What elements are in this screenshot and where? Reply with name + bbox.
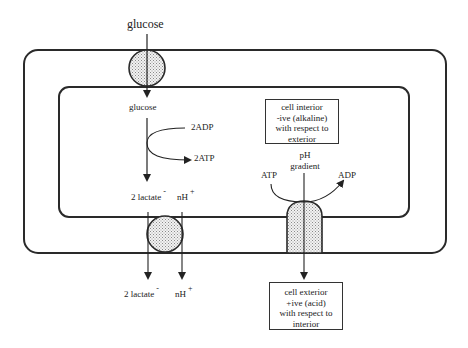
proton-inside-label: nH+: [177, 192, 195, 203]
outer-membrane: [24, 50, 446, 253]
cell-exterior-box: cell exterior +ive (acid) with respect t…: [269, 282, 343, 330]
adp-atp-curve: [147, 128, 190, 160]
ph-gradient-label: pH gradient: [285, 150, 325, 172]
atp-adp-curve: [271, 181, 343, 202]
atp-label: 2ATP: [194, 153, 215, 164]
cell-diagram: [0, 0, 468, 348]
lactate-inside-label: 2 lactate-: [131, 192, 166, 203]
inner-membrane: [59, 87, 409, 217]
cell-interior-box: cell interior -ive (alkaline) with respe…: [265, 99, 339, 144]
lactate-outside-label: 2 lactate-: [124, 289, 159, 300]
adp-label: 2ADP: [191, 122, 214, 133]
lactate-proton-symporter: [147, 216, 183, 252]
proton-outside-label: nH+: [175, 289, 193, 300]
pump-atp-label: ATP: [261, 170, 277, 181]
glucose-outside-label: glucose: [127, 17, 164, 31]
glucose-inside-label: glucose: [129, 102, 157, 113]
pump-adp-label: ADP: [338, 170, 356, 181]
